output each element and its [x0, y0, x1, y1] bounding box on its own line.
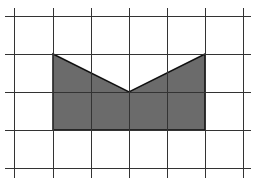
grid-diagram [0, 0, 259, 189]
